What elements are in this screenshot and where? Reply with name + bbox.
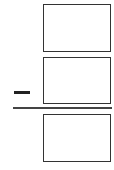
subtrahend-box[interactable] [43, 57, 111, 104]
answer-box[interactable] [43, 114, 111, 162]
minuend-box[interactable] [43, 4, 111, 52]
answer-divider-line [13, 107, 112, 109]
minus-icon [14, 91, 30, 94]
